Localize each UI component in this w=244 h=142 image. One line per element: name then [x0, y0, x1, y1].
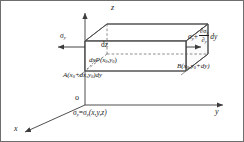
partial-derivative-fraction: ∂σy∂y: [199, 28, 209, 44]
denominator-subscript: y: [205, 39, 207, 44]
stress-label-left: σy: [60, 32, 66, 40]
axis-label-x: x: [14, 125, 18, 133]
point-b-text: B(x: [177, 62, 187, 70]
point-p-end: ): [115, 56, 117, 64]
point-a-end: )dy: [93, 71, 102, 79]
point-label-a: A(x0+dx,y0)dy: [63, 72, 102, 79]
dimension-label-dz: dz: [101, 41, 108, 49]
point-label-b: B(x0,y0+dy): [177, 63, 210, 70]
stress-left-subscript: y: [64, 35, 66, 40]
axis-label-y: y: [215, 108, 219, 116]
axis-origin-label: o: [75, 94, 79, 102]
stress-function-equation: σy=σy(x,y,z): [73, 109, 107, 117]
diagram-vector-layer: [1, 1, 244, 142]
fraction-denominator: ∂y: [199, 36, 209, 44]
stress-label-right: σy+∂σy∂ydy: [188, 29, 217, 45]
point-b-end: +dy): [196, 62, 210, 70]
figure-canvas: z y x o σy σy+∂σy∂ydy dz dxP(x0,y0) A(x0…: [0, 0, 244, 142]
stress-right-dy: dy: [210, 32, 217, 41]
stress-right-operator: +: [194, 32, 198, 41]
point-a-mid: +dx,y: [75, 71, 91, 79]
equation-rhs-arguments: (x,y,z): [89, 108, 107, 117]
point-a-text: A(x: [63, 71, 73, 79]
axis-label-z: z: [111, 4, 114, 12]
fraction-numerator: ∂σy: [199, 28, 209, 36]
point-p-text: P(x: [96, 56, 106, 64]
point-label-p: dxP(x0,y0): [89, 57, 117, 64]
numerator-subscript: y: [206, 30, 208, 35]
dimension-label-dx: dx: [89, 56, 96, 64]
